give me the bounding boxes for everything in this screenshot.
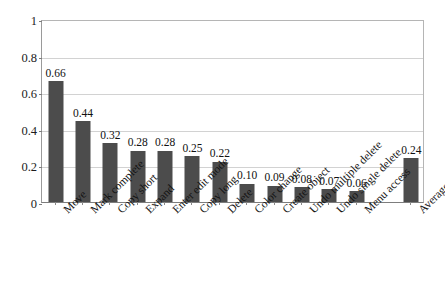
x-axis-category-label: Menu access bbox=[362, 207, 371, 216]
x-tick-mark bbox=[219, 202, 220, 205]
bar-slot[interactable]: 0.44 bbox=[69, 21, 96, 202]
x-axis-category-label: Copy short bbox=[115, 207, 124, 216]
y-tick-label: 0.8 bbox=[21, 51, 37, 64]
bar-slot[interactable]: 0.66 bbox=[42, 21, 69, 202]
bar-value-label: 0.25 bbox=[182, 143, 202, 155]
x-axis-category-label: Delete bbox=[225, 207, 234, 216]
x-axis-category-label: Mark complete bbox=[88, 207, 97, 216]
x-tick-mark bbox=[356, 202, 357, 205]
bar-value-label: 0.32 bbox=[100, 130, 120, 142]
x-axis-labels: MoveMark completeCopy shortExpandEnter e… bbox=[41, 205, 424, 303]
bar-value-label: 0.10 bbox=[237, 170, 257, 182]
x-tick-mark bbox=[137, 202, 138, 205]
x-tick-mark bbox=[328, 202, 329, 205]
x-axis-category-label: Undo multiple delete bbox=[307, 207, 316, 216]
y-tick-label: 0.4 bbox=[21, 125, 37, 138]
bar-value-label: 0.24 bbox=[401, 145, 421, 157]
x-axis-category-label: Color change bbox=[252, 207, 261, 216]
x-axis-category-label: Create object bbox=[280, 207, 289, 216]
bar-value-label: 0.66 bbox=[46, 68, 66, 80]
x-axis-category-label: Undo single delete bbox=[334, 207, 343, 216]
bar-value-label: 0.28 bbox=[155, 137, 175, 149]
x-tick-mark bbox=[164, 202, 165, 205]
y-tick-label: 0 bbox=[31, 198, 37, 211]
x-axis-category-label: Move bbox=[61, 207, 70, 216]
bar[interactable] bbox=[404, 158, 419, 202]
x-axis-category-label: Average bbox=[416, 207, 425, 216]
x-tick-mark bbox=[82, 202, 83, 205]
x-tick-mark bbox=[246, 202, 247, 205]
x-tick-mark bbox=[301, 202, 302, 205]
bar-chart: 00.20.40.60.81 0.660.440.320.280.280.250… bbox=[0, 0, 445, 305]
y-tick-label: 0.6 bbox=[21, 88, 37, 101]
x-tick-mark bbox=[191, 202, 192, 205]
x-tick-mark bbox=[410, 202, 411, 205]
bar-value-label: 0.28 bbox=[128, 137, 148, 149]
x-tick-mark bbox=[109, 202, 110, 205]
x-tick-mark bbox=[55, 202, 56, 205]
bar-slot[interactable]: 0.10 bbox=[234, 21, 261, 202]
bar-value-label: 0.44 bbox=[73, 108, 93, 120]
bar[interactable] bbox=[48, 81, 63, 202]
x-axis-category-label: Copy long bbox=[197, 207, 206, 216]
y-tick-label: 0.2 bbox=[21, 161, 37, 174]
x-tick-mark bbox=[274, 202, 275, 205]
x-axis-category-label: Enter edit mode bbox=[170, 207, 179, 216]
x-axis-category-label: Expand bbox=[143, 207, 152, 216]
y-tick-label: 1 bbox=[31, 15, 37, 28]
